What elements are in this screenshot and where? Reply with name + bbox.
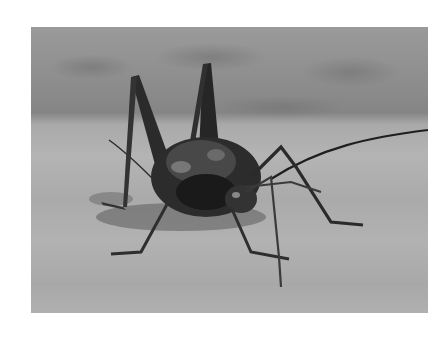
cave-cricket-photo xyxy=(31,27,428,313)
cricket-illustration xyxy=(31,27,428,313)
